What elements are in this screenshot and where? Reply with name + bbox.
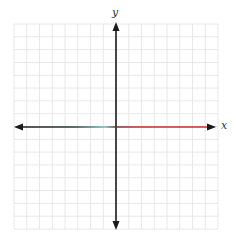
y-axis-label: y: [112, 6, 118, 19]
x-axis-right-arrow-icon: [207, 124, 216, 131]
x-axis-left-arrow-icon: [14, 124, 23, 131]
x-axis-label: x: [221, 119, 227, 132]
coordinate-plane: [0, 0, 236, 241]
y-axis-top-arrow-icon: [113, 22, 120, 31]
